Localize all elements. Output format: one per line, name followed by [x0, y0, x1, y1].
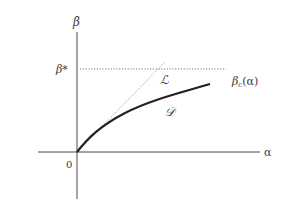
diagram-canvas: β β* 0 α ℒ 𝒟 βc(α): [0, 0, 282, 207]
beta-star-label: β*: [55, 63, 68, 76]
boundary-argument: (α): [242, 75, 258, 88]
x-axis-label: α: [264, 146, 272, 159]
y-axis-label: β: [72, 15, 80, 29]
origin-label: 0: [66, 159, 72, 170]
curve-D-label: 𝒟: [165, 105, 177, 119]
boundary-label: βc(α): [231, 75, 258, 89]
boundary-symbol: β: [231, 75, 238, 88]
curve-D: [77, 84, 210, 152]
line-L-label: ℒ: [160, 73, 169, 87]
